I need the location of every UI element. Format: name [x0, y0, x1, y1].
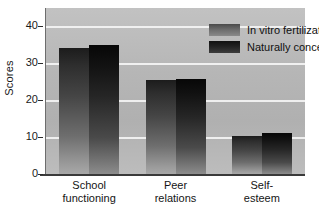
y-tick-mark	[38, 26, 43, 27]
legend: In vitro fertilization Naturally conceiv…	[209, 24, 319, 53]
bar	[176, 79, 206, 174]
x-category-label-line: relations	[126, 192, 226, 205]
x-category-label: Peerrelations	[126, 179, 226, 205]
x-category-label-line: esteem	[212, 192, 312, 205]
legend-label: Naturally conceived	[247, 42, 319, 53]
y-tick-mark	[38, 63, 43, 64]
x-category-label-line: School	[39, 179, 139, 192]
x-axis-category-labels: SchoolfunctioningPeerrelationsSelf-estee…	[46, 179, 305, 209]
bar	[89, 45, 119, 174]
x-category-label: Self-esteem	[212, 179, 312, 205]
x-category-label-line: Self-	[212, 179, 312, 192]
y-axis-line	[45, 8, 46, 175]
legend-item: Naturally conceived	[209, 41, 319, 53]
bar	[232, 136, 262, 174]
x-category-label-line: Peer	[126, 179, 226, 192]
legend-swatch-icon	[209, 41, 240, 53]
y-axis-tick-labels: 010203040	[14, 0, 38, 209]
bar	[59, 48, 89, 174]
x-axis-line	[40, 174, 305, 176]
bar	[146, 80, 176, 174]
plot-area: In vitro fertilization Naturally conceiv…	[46, 8, 305, 175]
y-tick-label: 30	[18, 57, 38, 68]
legend-item: In vitro fertilization	[209, 24, 319, 36]
y-tick-mark	[38, 137, 43, 138]
y-tick-label: 40	[18, 20, 38, 31]
y-tick-label: 0	[18, 168, 38, 179]
x-category-label: Schoolfunctioning	[39, 179, 139, 205]
y-tick-label: 10	[18, 131, 38, 142]
y-tick-mark	[38, 100, 43, 101]
x-category-label-line: functioning	[39, 192, 139, 205]
y-tick-label: 20	[18, 94, 38, 105]
bar-chart: Scores 010203040 In vitro fertilization …	[0, 0, 319, 209]
y-tick-mark	[38, 174, 43, 175]
legend-label: In vitro fertilization	[247, 25, 319, 36]
bar	[262, 133, 292, 174]
legend-swatch-icon	[209, 24, 240, 36]
